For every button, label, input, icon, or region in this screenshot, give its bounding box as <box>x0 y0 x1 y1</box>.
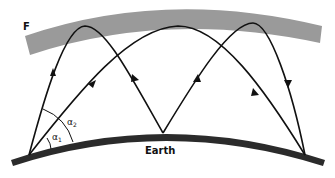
arrow-icon <box>88 80 96 88</box>
alpha1-subscript: 1 <box>58 136 62 143</box>
angle-arc-alpha1 <box>47 138 51 149</box>
alpha2-label: α2 <box>67 118 77 128</box>
f-layer-label: F <box>23 22 30 32</box>
arrow-icon <box>284 80 292 88</box>
arrow-icon <box>251 88 259 96</box>
f-layer-band <box>25 9 322 55</box>
alpha1-label: α1 <box>52 133 62 143</box>
alpha2-subscript: 2 <box>73 121 77 128</box>
arrow-icon <box>131 74 139 82</box>
earth-label: Earth <box>145 146 175 156</box>
